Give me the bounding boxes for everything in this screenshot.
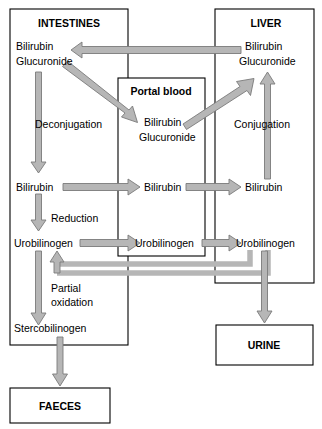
species-liver-urobilinogen: Urobilinogen bbox=[236, 237, 295, 249]
process-label-conjugation: Conjugation bbox=[234, 118, 290, 130]
species-liver-bilirubin: Bilirubin bbox=[245, 181, 283, 193]
compartment-title-intestines: INTESTINES bbox=[38, 17, 100, 29]
species-intestines-bilirubin: Bilirubin bbox=[16, 181, 54, 193]
species-portal-bilirubin: Bilirubin bbox=[144, 181, 182, 193]
species-portal-bilirubin-glucuronide-line1: Bilirubin bbox=[144, 116, 182, 128]
species-liver-bilirubin-glucuronide-line2: Glucuronide bbox=[239, 55, 296, 67]
species-intestines-stercobilinogen: Stercobilinogen bbox=[14, 322, 87, 334]
process-label-reduction: Reduction bbox=[51, 212, 98, 224]
species-portal-urobilinogen: Urobilinogen bbox=[135, 237, 194, 249]
species-intestines-urobilinogen: Urobilinogen bbox=[14, 237, 73, 249]
process-label-deconjugation: Deconjugation bbox=[35, 118, 102, 130]
species-intestines-bilirubin-glucuronide-line2: Glucuronide bbox=[16, 55, 73, 67]
compartment-title-portal-blood: Portal blood bbox=[130, 85, 191, 97]
species-liver-bilirubin-glucuronide-line1: Bilirubin bbox=[245, 40, 283, 52]
species-portal-bilirubin-glucuronide-line2: Glucuronide bbox=[139, 131, 196, 143]
diagram-canvas: INTESTINES LIVER Portal blood Bilirubin … bbox=[0, 0, 322, 429]
terminal-label-faeces: FAECES bbox=[39, 400, 81, 412]
species-intestines-bilirubin-glucuronide-line1: Bilirubin bbox=[16, 40, 54, 52]
terminal-label-urine: URINE bbox=[248, 339, 281, 351]
compartment-title-liver: LIVER bbox=[251, 17, 282, 29]
process-label-partial-oxidation-line1: Partial bbox=[51, 282, 81, 294]
compartment-box-portal-blood bbox=[118, 78, 205, 256]
process-label-partial-oxidation-line2: oxidation bbox=[51, 296, 93, 308]
bilirubin-metabolism-diagram: INTESTINES LIVER Portal blood Bilirubin … bbox=[0, 0, 322, 429]
